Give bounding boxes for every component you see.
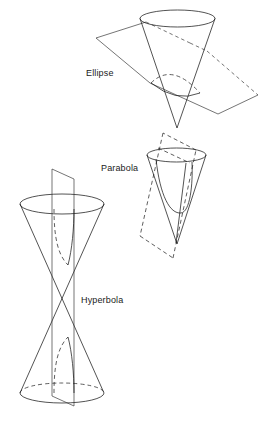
hyperbola-label: Hyperbola bbox=[81, 295, 123, 305]
ellipse-section-curve bbox=[151, 75, 200, 97]
ellipse-plane-chord bbox=[190, 43, 207, 51]
conic-sections-figure: Ellipse Parabola Hyperbola bbox=[0, 0, 268, 429]
ellipse-cone-rim bbox=[140, 10, 215, 27]
parabola-label: Parabola bbox=[101, 163, 138, 173]
ellipse-label: Ellipse bbox=[86, 68, 114, 78]
parabola-cone-sides bbox=[147, 155, 206, 244]
ellipse-cone-sides bbox=[140, 19, 215, 129]
hyperbola-upper-branch bbox=[54, 209, 74, 265]
conic-sections-drawing bbox=[0, 0, 268, 429]
parabola-section-curve bbox=[156, 159, 192, 213]
hyperbola-lower-rim bbox=[20, 383, 104, 403]
parabola-diagram bbox=[140, 133, 206, 258]
hyperbola-diagram bbox=[20, 169, 104, 406]
hyperbola-upper-rim bbox=[20, 194, 104, 214]
ellipse-cutting-plane bbox=[96, 22, 258, 114]
parabola-cutting-plane bbox=[140, 133, 196, 258]
ellipse-diagram bbox=[96, 10, 258, 128]
hyperbola-lower-branch bbox=[54, 337, 74, 393]
